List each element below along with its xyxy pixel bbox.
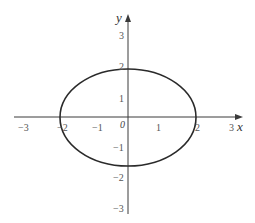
y-tick-label: −3 (113, 203, 124, 214)
coordinate-plane: x y 0 −3 −2 −1 1 2 3 3 2 1 −1 −2 −3 (0, 0, 255, 223)
x-tick-label: −3 (18, 122, 29, 133)
x-tick-label: 2 (195, 122, 200, 133)
ellipse-diagram: x y 0 −3 −2 −1 1 2 3 3 2 1 −1 −2 −3 (0, 0, 255, 223)
y-tick-label: −2 (113, 172, 124, 183)
x-tick-label: 1 (156, 122, 161, 133)
x-axis-label: x (236, 119, 243, 134)
y-tick-label: 3 (119, 30, 124, 41)
x-tick-label: −2 (57, 122, 68, 133)
y-tick-label: −1 (113, 142, 124, 153)
x-tick-labels: −3 −2 −1 1 2 3 (18, 122, 234, 133)
y-axis-label: y (114, 10, 122, 25)
y-axis-arrow-icon (125, 14, 131, 22)
x-tick-label: 3 (229, 122, 234, 133)
origin-label: 0 (120, 119, 125, 130)
x-tick-label: −1 (92, 122, 103, 133)
y-tick-label: 1 (119, 93, 124, 104)
y-tick-label: 2 (119, 61, 124, 72)
